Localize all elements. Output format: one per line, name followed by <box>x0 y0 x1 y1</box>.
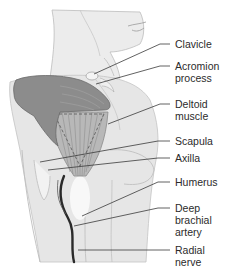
label-deltoid-muscle: Deltoid muscle <box>175 98 208 122</box>
label-clavicle: Clavicle <box>175 38 212 50</box>
anatomy-diagram: Clavicle Acromion process Deltoid muscle… <box>0 0 235 277</box>
label-humerus: Humerus <box>175 176 218 188</box>
label-radial-nerve: Radial nerve <box>175 244 205 268</box>
head-neck <box>50 10 146 78</box>
label-axilla: Axilla <box>175 152 200 164</box>
label-scapula: Scapula <box>175 135 213 147</box>
label-deep-brachial-artery: Deep brachial artery <box>175 202 212 238</box>
label-acromion-process: Acromion process <box>175 60 219 84</box>
